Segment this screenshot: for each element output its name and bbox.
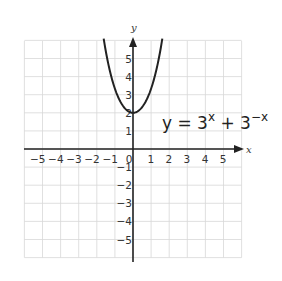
x-axis-label: x bbox=[246, 144, 252, 155]
x-tick-label: −5 bbox=[30, 153, 45, 165]
y-tick-label: 1 bbox=[125, 125, 132, 137]
y-tick-label: 3 bbox=[125, 89, 132, 101]
y-tick-label: 4 bbox=[125, 71, 132, 83]
y-tick-label: −2 bbox=[117, 179, 132, 191]
x-tick-label: −4 bbox=[48, 153, 64, 165]
y-tick-label: −1 bbox=[117, 161, 132, 173]
x-tick-label: 1 bbox=[147, 153, 154, 165]
x-tick-label: 2 bbox=[166, 153, 173, 165]
axes: x y bbox=[24, 22, 252, 262]
equation-label: y = 3x + 3−x bbox=[162, 110, 268, 133]
y-axis-arrow-icon bbox=[129, 37, 137, 47]
y-tick-label: −3 bbox=[117, 197, 132, 209]
y-tick-label: −5 bbox=[117, 234, 132, 246]
y-tick-label: 5 bbox=[125, 53, 132, 65]
x-tick-label: 5 bbox=[220, 153, 227, 165]
y-tick-label: −4 bbox=[117, 215, 133, 227]
x-tick-label: 4 bbox=[202, 153, 209, 165]
function-graph: x y −5−4−3−2−1012345 54321−1−2−3−4−5 y =… bbox=[0, 0, 282, 281]
x-tick-label: −3 bbox=[66, 153, 81, 165]
x-axis-arrow-icon bbox=[234, 145, 244, 153]
y-axis-label: y bbox=[130, 22, 137, 33]
x-tick-label: −2 bbox=[84, 153, 99, 165]
x-tick-label: 3 bbox=[184, 153, 191, 165]
